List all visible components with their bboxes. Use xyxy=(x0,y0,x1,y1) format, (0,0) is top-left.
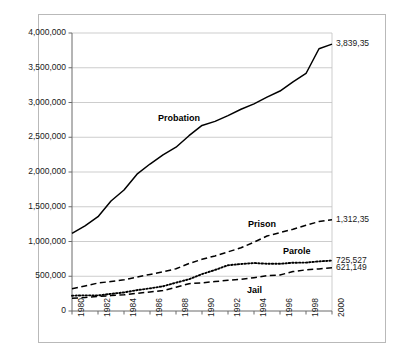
end-value-label-probation: 3,839,35 xyxy=(336,38,369,48)
x-axis-tick-label: 1986 xyxy=(154,298,164,317)
x-axis-tick-label: 1990 xyxy=(206,298,216,317)
end-value-label-prison: 1,312,35 xyxy=(336,214,369,224)
y-axis-tick-label: 4,000,000 xyxy=(28,27,66,37)
chart-figure: 0500,0001,000,0001,500,0002,000,0002,500… xyxy=(0,0,410,360)
x-axis-tick-label: 1984 xyxy=(128,298,138,317)
x-axis-tick-label: 1982 xyxy=(102,298,112,317)
y-axis-tick-label: 500,000 xyxy=(35,270,66,280)
x-axis-tick-label: 1998 xyxy=(310,298,320,317)
series-label-prison: Prison xyxy=(248,219,276,229)
x-axis-tick-label: 1980 xyxy=(76,298,86,317)
y-axis-tick-label: 0 xyxy=(61,305,66,315)
x-axis-tick-label: 1994 xyxy=(258,298,268,317)
y-axis-tick-label: 1,500,000 xyxy=(28,201,66,211)
series-label-jail: Jail xyxy=(247,285,262,295)
x-axis-tick-label: 1988 xyxy=(180,298,190,317)
series-line-parole xyxy=(72,261,332,296)
end-value-label-jail: 621,149 xyxy=(336,262,367,272)
y-axis-tick-label: 1,000,000 xyxy=(28,236,66,246)
x-axis-tick-label: 2000 xyxy=(336,298,346,317)
series-label-probation: Probation xyxy=(158,113,200,123)
y-axis-tick-label: 2,500,000 xyxy=(28,131,66,141)
y-axis-tick-label: 3,500,000 xyxy=(28,62,66,72)
series-line-probation xyxy=(72,44,332,233)
series-label-parole: Parole xyxy=(283,246,311,256)
x-axis-tick-label: 1992 xyxy=(232,298,242,317)
x-axis-tick-label: 1996 xyxy=(284,298,294,317)
y-axis-tick-label: 3,000,000 xyxy=(28,97,66,107)
y-axis-tick-label: 2,000,000 xyxy=(28,166,66,176)
